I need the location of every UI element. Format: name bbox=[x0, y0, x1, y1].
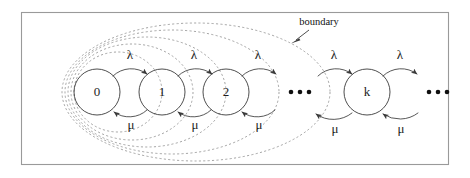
ellipsis-dot bbox=[445, 90, 450, 95]
state-label-2: 2 bbox=[223, 84, 230, 99]
boundary-label: boundary bbox=[299, 16, 339, 27]
state-label-1: 1 bbox=[159, 84, 166, 99]
ellipsis-middle bbox=[289, 90, 312, 95]
rate-label-lambda-3: λ bbox=[255, 47, 262, 62]
rate-label-lambda-5: λ bbox=[397, 47, 404, 62]
rate-label-mu-2: μ bbox=[192, 117, 199, 132]
rate-label-lambda-1: λ bbox=[127, 47, 134, 62]
ellipsis-dot bbox=[298, 90, 303, 95]
rate-label-mu-1: μ bbox=[128, 117, 135, 132]
figure-container: 0 1 2 k λ λ λ λ λ μ μ μ μ μ bbox=[0, 0, 470, 178]
ellipsis-dot bbox=[436, 90, 441, 95]
rate-label-lambda-4: λ bbox=[331, 47, 338, 62]
ellipsis-dot bbox=[289, 90, 294, 95]
rate-label-mu-5: μ bbox=[398, 121, 405, 136]
ellipsis-dot bbox=[307, 90, 312, 95]
state-label-k: k bbox=[364, 84, 371, 99]
rate-label-mu-3: μ bbox=[256, 117, 263, 132]
rate-label-lambda-2: λ bbox=[191, 47, 198, 62]
state-label-0: 0 bbox=[94, 84, 101, 99]
rate-label-mu-4: μ bbox=[332, 121, 339, 136]
ellipsis-dot bbox=[427, 90, 432, 95]
markov-chain-diagram: 0 1 2 k λ λ λ λ λ μ μ μ μ μ bbox=[0, 0, 470, 178]
ellipsis-right bbox=[427, 90, 450, 95]
